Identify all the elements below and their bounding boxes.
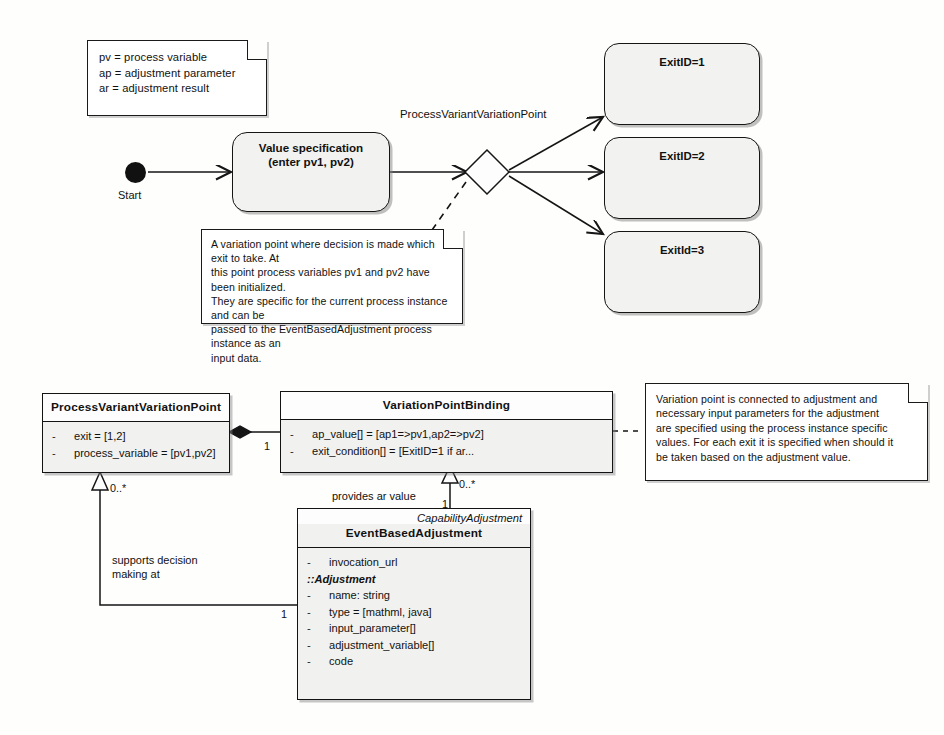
- decision-note-text: A variation point where decision is made…: [202, 230, 462, 372]
- visibility-marker: -: [307, 637, 329, 654]
- value-specification-label: Value specification (enter pv1, pv2): [233, 133, 389, 169]
- attribute-text: exit = [1,2]: [74, 428, 126, 445]
- legend-note-text: pv = process variable ap = adjustment pa…: [88, 41, 266, 103]
- class-attributes-pvvp: - exit = [1,2] - process_variable = [pv1…: [43, 422, 229, 467]
- multiplicity-composition: 1: [264, 440, 270, 452]
- edge-note-to-decision: [432, 182, 466, 230]
- attribute-text: code: [329, 653, 353, 670]
- attribute-text: exit_condition[] = [ExitID=1 if ar...: [312, 443, 474, 460]
- class-attributes-vpb: - ap_value[] = [ap1=>pv1,ap2=>pv2] - exi…: [281, 420, 612, 465]
- attribute-row: - input_parameter[]: [298, 620, 526, 637]
- decision-note: A variation point where decision is made…: [201, 229, 463, 324]
- exit-2-label: ExitID=2: [605, 138, 759, 163]
- class-stereotype-capability-adjustment: CapabilityAdjustment: [298, 509, 530, 524]
- attribute-row: - adjustment_variable[]: [298, 637, 526, 654]
- class-variation-point-binding[interactable]: VariationPointBinding - ap_value[] = [ap…: [280, 391, 613, 473]
- visibility-marker: -: [307, 620, 329, 637]
- attribute-text: process_variable = [pv1,pv2]: [74, 445, 216, 462]
- attribute-row: - exit = [1,2]: [43, 428, 225, 445]
- activity-value-specification[interactable]: Value specification (enter pv1, pv2): [232, 132, 390, 212]
- attribute-row: - name: string: [298, 587, 526, 604]
- attribute-text: adjustment_variable[]: [329, 637, 434, 654]
- class-note-text: Variation point is connected to adjustme…: [646, 384, 927, 472]
- variation-point-label: ProcessVariantVariationPoint: [400, 108, 546, 120]
- class-attributes-eba: - invocation_url ::Adjustment - name: st…: [298, 548, 530, 676]
- composition-diamond: [229, 426, 251, 438]
- visibility-marker: -: [307, 587, 329, 604]
- class-process-variant-variation-point[interactable]: ProcessVariantVariationPoint - exit = [1…: [42, 393, 230, 473]
- class-name-eba: EventBasedAdjustment: [298, 524, 530, 548]
- attribute-row: - type = [mathml, java]: [298, 604, 526, 621]
- attribute-row: - ap_value[] = [ap1=>pv1,ap2=>pv2]: [281, 426, 608, 443]
- multiplicity-provides-source: 1: [442, 498, 448, 510]
- class-event-based-adjustment[interactable]: CapabilityAdjustment EventBasedAdjustmen…: [297, 508, 531, 700]
- legend-note: pv = process variable ap = adjustment pa…: [87, 40, 267, 116]
- start-label: Start: [118, 189, 141, 201]
- diagram-canvas: pv = process variable ap = adjustment pa…: [0, 0, 944, 735]
- attribute-row: - process_variable = [pv1,pv2]: [43, 445, 225, 462]
- activity-exit-1[interactable]: ExitID=1: [604, 43, 760, 125]
- label-supports-decision: supports decision making at: [112, 553, 198, 581]
- supports-arrow-head: [92, 472, 108, 490]
- edge-decision-to-exit3: [509, 176, 603, 234]
- exit-1-label: ExitID=1: [605, 44, 759, 69]
- class-name-pvvp: ProcessVariantVariationPoint: [43, 394, 229, 422]
- visibility-marker: -: [307, 653, 329, 670]
- visibility-marker: -: [52, 445, 74, 462]
- multiplicity-generalization-pvvp: 0..*: [110, 482, 126, 494]
- edge-supports-decision: [100, 488, 297, 605]
- class-note: Variation point is connected to adjustme…: [645, 383, 928, 481]
- visibility-marker: -: [290, 426, 312, 443]
- attribute-text: input_parameter[]: [329, 620, 416, 637]
- decision-diamond: [465, 150, 509, 194]
- visibility-marker: -: [307, 604, 329, 621]
- label-provides-ar-value: provides ar value: [332, 489, 416, 503]
- inherited-section-label: ::Adjustment: [298, 571, 526, 588]
- multiplicity-supports-source: 1: [281, 608, 287, 620]
- start-node: [125, 162, 146, 183]
- attribute-row: - code: [298, 653, 526, 670]
- attribute-text: name: string: [329, 587, 390, 604]
- activity-exit-2[interactable]: ExitID=2: [604, 137, 760, 219]
- edge-decision-to-exit1: [509, 117, 603, 170]
- attribute-row: - exit_condition[] = [ExitID=1 if ar...: [281, 443, 608, 460]
- activity-exit-3[interactable]: ExitId=3: [604, 231, 760, 313]
- attribute-text: ap_value[] = [ap1=>pv1,ap2=>pv2]: [312, 426, 484, 443]
- attribute-text: invocation_url: [329, 554, 397, 571]
- exit-3-label: ExitId=3: [605, 232, 759, 257]
- attribute-text: type = [mathml, java]: [329, 604, 432, 621]
- visibility-marker: -: [307, 554, 329, 571]
- multiplicity-provides-target: 0..*: [459, 478, 475, 490]
- class-name-vpb: VariationPointBinding: [281, 392, 612, 420]
- visibility-marker: -: [290, 443, 312, 460]
- visibility-marker: -: [52, 428, 74, 445]
- attribute-row: - invocation_url: [298, 554, 526, 571]
